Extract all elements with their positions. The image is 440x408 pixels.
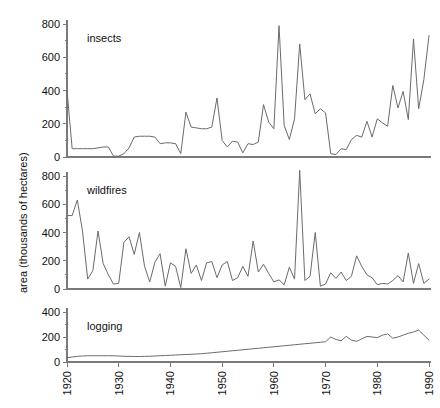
- x-tick-label: 1980: [371, 371, 383, 395]
- chart-canvas: 0200400600800insects0200400600800wildfir…: [0, 0, 440, 408]
- x-tick-label: 1930: [113, 371, 125, 395]
- x-tick-label: 1920: [61, 371, 73, 395]
- y-axis-title: area (thousands of hectares): [17, 152, 29, 293]
- y-tick-label: 0: [54, 356, 60, 368]
- y-tick-label: 800: [42, 170, 60, 182]
- panel-wildfires: 0200400600800wildfires: [42, 170, 431, 295]
- x-tick-label: 1940: [164, 371, 176, 395]
- x-tick-label: 1990: [423, 371, 435, 395]
- y-tick-label: 600: [42, 51, 60, 63]
- y-tick-label: 200: [42, 331, 60, 343]
- y-tick-label: 0: [54, 151, 60, 163]
- y-tick-label: 0: [54, 283, 60, 295]
- x-tick-label: 1950: [216, 371, 228, 395]
- y-tick-label: 800: [42, 18, 60, 30]
- panel-logging: 0200400logging19201930194019501960197019…: [42, 306, 435, 395]
- series-line-logging: [67, 330, 429, 358]
- panel-label-logging: logging: [87, 320, 122, 332]
- series-line-insects: [67, 26, 429, 157]
- x-tick-label: 1970: [320, 371, 332, 395]
- x-tick-label: 1960: [268, 371, 280, 395]
- panel-label-wildfires: wildfires: [86, 184, 127, 196]
- y-tick-label: 600: [42, 198, 60, 210]
- panel-label-insects: insects: [87, 32, 122, 44]
- forest-disturbance-figure: area (thousands of hectares) 02004006008…: [0, 0, 440, 408]
- y-tick-label: 400: [42, 227, 60, 239]
- panel-insects: 0200400600800insects: [42, 18, 431, 163]
- y-tick-label: 200: [42, 118, 60, 130]
- y-tick-label: 200: [42, 255, 60, 267]
- y-tick-label: 400: [42, 85, 60, 97]
- y-tick-label: 400: [42, 306, 60, 318]
